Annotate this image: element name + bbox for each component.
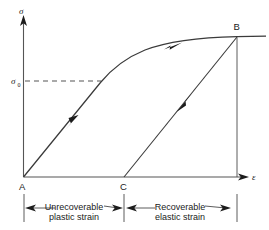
- stress-axis-label: σ: [19, 6, 24, 16]
- caption-left-line1: Unrecoverable: [45, 202, 104, 212]
- yield-stress-tick-label: σ 0: [11, 76, 21, 88]
- caption-left-line2: plastic strain: [49, 212, 99, 222]
- caption-right-group: Recoverable elastic strain: [126, 202, 231, 223]
- caption-right-line2: elastic strain: [155, 212, 205, 222]
- loading-curve-path: [24, 36, 267, 177]
- caption-right-line1: Recoverable: [155, 202, 206, 212]
- caption-left-group: Unrecoverable plastic strain: [25, 202, 123, 223]
- caption-left-arrowhead-end: [112, 205, 123, 212]
- unloading-line-path: [124, 37, 237, 177]
- point-label-a: A: [19, 181, 26, 192]
- point-label-c: C: [120, 181, 127, 192]
- strain-axis-label: ε: [252, 172, 256, 182]
- point-label-b: B: [234, 21, 240, 32]
- figure-canvas: σ ε σ 0 A C B Unrecoverable plastic stra…: [0, 0, 269, 230]
- unloading-line-group: [124, 37, 237, 177]
- stress-strain-figure: σ ε σ 0 A C B Unrecoverable plastic stra…: [0, 0, 269, 230]
- yield-stress-symbol: σ: [11, 76, 16, 86]
- loading-elastic-arrowhead: [65, 115, 79, 131]
- loading-curve-group: [24, 36, 267, 177]
- axis-group: [20, 15, 249, 181]
- yield-stress-subscript: 0: [18, 82, 21, 88]
